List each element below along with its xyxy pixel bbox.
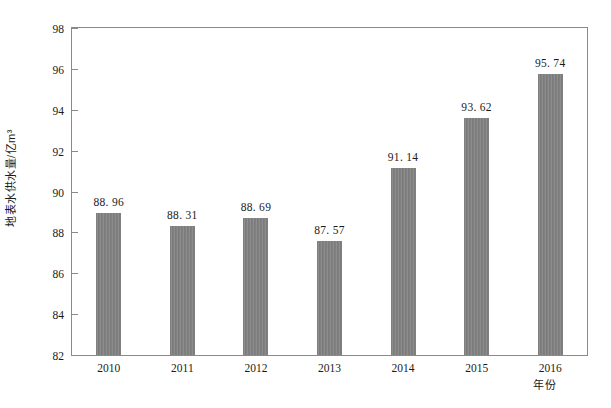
y-axis-tick: 82 — [71, 355, 78, 356]
y-axis-tick: 98 — [71, 28, 78, 29]
y-axis-tick-label: 86 — [53, 268, 65, 280]
y-axis-tick: 94 — [71, 110, 78, 111]
y-axis-tick-label: 96 — [53, 64, 65, 76]
bar[interactable]: 87. 572013 — [317, 241, 342, 355]
bar[interactable]: 88. 692012 — [243, 218, 268, 355]
bar[interactable]: 93. 622015 — [464, 118, 489, 355]
y-axis-tick-label: 98 — [53, 23, 65, 35]
y-axis-tick: 86 — [71, 273, 78, 274]
y-axis-tick: 92 — [71, 151, 78, 152]
plot-area: 828486889092949698 88. 96201088. 3120118… — [71, 27, 588, 356]
x-axis-tick-label: 2016 — [539, 362, 562, 374]
x-axis-tick-label: 2010 — [97, 362, 120, 374]
bar[interactable]: 91. 142014 — [391, 168, 416, 355]
y-axis-tick-label: 90 — [53, 187, 65, 199]
bar-value-label: 88. 96 — [94, 196, 125, 208]
bar-value-label: 95. 74 — [535, 57, 566, 69]
y-axis-tick-label: 92 — [53, 146, 65, 158]
x-axis-tick-label: 2011 — [171, 362, 194, 374]
bar-value-label: 88. 69 — [241, 201, 272, 213]
bar[interactable]: 95. 742016 — [538, 74, 563, 355]
y-axis-tick: 84 — [71, 314, 78, 315]
bar-value-label: 87. 57 — [314, 224, 345, 236]
bar[interactable]: 88. 312011 — [170, 226, 195, 355]
x-axis-tick-label: 2012 — [244, 362, 267, 374]
y-axis-tick: 90 — [71, 192, 78, 193]
y-axis-tick: 88 — [71, 232, 78, 233]
x-axis-tick-label: 2015 — [465, 362, 488, 374]
bar-value-label: 91. 14 — [388, 151, 419, 163]
bar-value-label: 93. 62 — [461, 101, 492, 113]
x-axis-title: 年份 — [533, 376, 556, 392]
y-axis-tick-label: 82 — [53, 350, 65, 362]
x-axis-tick-label: 2014 — [392, 362, 415, 374]
bar-value-label: 88. 31 — [167, 209, 198, 221]
y-axis-tick-label: 94 — [53, 105, 65, 117]
chart-figure: 地表水供水量/亿m³ 828486889092949698 88. 962010… — [0, 0, 611, 408]
y-axis-tick-label: 84 — [53, 309, 65, 321]
y-axis-title-text: 地表水供水量/亿m³ — [2, 129, 18, 227]
x-axis-tick-label: 2013 — [318, 362, 341, 374]
y-axis-title: 地表水供水量/亿m³ — [0, 0, 20, 356]
bar[interactable]: 88. 962010 — [96, 213, 121, 355]
y-axis-tick: 96 — [71, 69, 78, 70]
y-axis-tick-label: 88 — [53, 227, 65, 239]
